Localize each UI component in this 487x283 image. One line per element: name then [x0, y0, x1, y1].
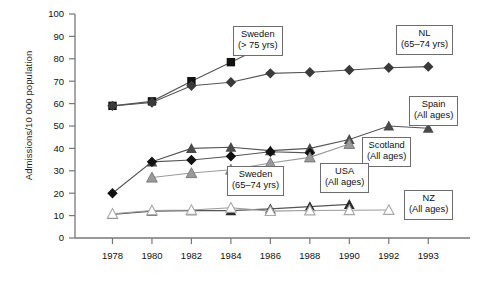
- callout-nz: NZ (All ages): [404, 190, 453, 220]
- callout-sweden-6574-line2: (65–74 yrs): [232, 180, 279, 191]
- data-point-marker: [226, 77, 236, 87]
- callout-scotland-line2: (All ages): [367, 151, 406, 162]
- y-tick-label: 90: [53, 31, 64, 42]
- data-point-marker: [383, 121, 394, 131]
- callout-nl-line1: NL: [401, 28, 448, 39]
- x-tick-label: 1986: [260, 250, 281, 261]
- callout-spain-line2: (All ages): [414, 110, 453, 121]
- data-point-marker: [344, 65, 354, 75]
- callout-scotland: Scotland (All ages): [362, 137, 411, 167]
- x-tick-label: 1992: [378, 250, 399, 261]
- x-tick-label: 1982: [181, 250, 202, 261]
- data-point-marker: [186, 155, 196, 165]
- x-axis-ticks: [112, 238, 428, 244]
- data-point-marker: [423, 61, 433, 71]
- data-point-marker: [107, 188, 117, 198]
- y-tick-label: 50: [53, 120, 64, 131]
- series-nl-65-74-yrs: [107, 61, 433, 111]
- callout-usa-line2: (All ages): [325, 177, 364, 188]
- callout-nl: NL (65–74 yrs): [396, 25, 453, 55]
- callout-spain-line1: Spain: [414, 99, 453, 110]
- data-point-marker: [265, 68, 275, 78]
- callout-sweden-6574: Sweden (65–74 yrs): [227, 166, 284, 196]
- y-tick-label: 100: [48, 8, 64, 19]
- callout-sweden-6574-line1: Sweden: [232, 169, 279, 180]
- y-tick-label: 70: [53, 76, 64, 87]
- callout-usa-line1: USA: [325, 166, 364, 177]
- y-tick-label: 20: [53, 188, 64, 199]
- data-point-marker: [226, 203, 236, 213]
- callout-sweden-75-line1: Sweden: [238, 29, 278, 40]
- data-point-marker: [227, 58, 235, 66]
- y-tick-label: 0: [59, 232, 64, 243]
- x-tick-label: 1978: [102, 250, 123, 261]
- x-tick-label: 1980: [141, 250, 162, 261]
- y-tick-label: 40: [53, 143, 64, 154]
- callout-nz-line2: (All ages): [409, 204, 448, 215]
- callout-nz-line1: NZ: [409, 193, 448, 204]
- data-point-marker: [226, 151, 236, 161]
- callout-sweden-75: Sweden (> 75 yrs): [233, 26, 283, 56]
- y-tick-label: 80: [53, 53, 64, 64]
- x-tick-label: 1993: [418, 250, 439, 261]
- y-tick-label: 10: [53, 210, 64, 221]
- x-tick-label: 1988: [299, 250, 320, 261]
- data-point-marker: [305, 67, 315, 77]
- y-tick-label: 60: [53, 98, 64, 109]
- callout-usa: USA (All ages): [320, 163, 369, 193]
- callout-nl-line2: (65–74 yrs): [401, 39, 448, 50]
- data-point-marker: [265, 147, 275, 157]
- chart-figure: Admissions/10 000 population 01020304050…: [0, 0, 487, 283]
- y-axis-ticks: [69, 14, 75, 238]
- callout-sweden-75-line2: (> 75 yrs): [238, 40, 278, 51]
- data-point-marker: [384, 63, 394, 73]
- callout-scotland-line1: Scotland: [367, 140, 406, 151]
- callout-spain: Spain (All ages): [409, 96, 458, 126]
- x-tick-label: 1990: [339, 250, 360, 261]
- y-tick-label: 30: [53, 165, 64, 176]
- x-tick-label: 1984: [220, 250, 241, 261]
